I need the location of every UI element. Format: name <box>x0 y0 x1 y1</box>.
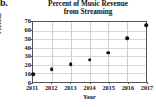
data-point <box>88 58 92 62</box>
y-tick-label: 20 <box>17 62 31 68</box>
y-tick-label: 30 <box>17 53 31 59</box>
y-tick-label: 50 <box>17 36 31 42</box>
y-tick-label: 40 <box>17 44 31 50</box>
y-axis-label: Percent <box>0 13 2 34</box>
data-point <box>107 51 111 55</box>
x-tick-mark <box>90 82 91 84</box>
chart-title: Percent of Music Revenue from Streaming <box>26 1 150 16</box>
x-tick-label: 2017 <box>136 84 156 91</box>
data-point <box>144 24 148 28</box>
x-tick-mark <box>128 82 129 84</box>
chart-screenshot: b. Percent of Music Revenue from Streami… <box>0 0 156 107</box>
gridline-vertical <box>90 22 91 82</box>
x-tick-mark <box>32 82 33 84</box>
y-tick-label: 60 <box>17 27 31 33</box>
x-axis-ticks: 2011201220132014201520162017 <box>32 84 147 93</box>
data-point <box>50 67 54 71</box>
data-point <box>125 36 129 40</box>
data-point <box>69 62 73 66</box>
y-tick-label: 70 <box>17 18 31 24</box>
x-tick-mark <box>109 82 110 84</box>
gridline-vertical <box>127 22 128 82</box>
x-tick-mark <box>147 82 148 84</box>
y-axis-ticks: 010203040506070 <box>14 21 31 83</box>
chart-title-line-2: from Streaming <box>26 9 150 17</box>
data-point <box>31 72 35 76</box>
x-axis-label: Year <box>32 93 147 100</box>
gridline-vertical <box>52 22 53 82</box>
x-tick-mark <box>70 82 71 84</box>
plot-area <box>32 21 147 83</box>
figure-part-label: b. <box>0 0 8 8</box>
x-tick-mark <box>51 82 52 84</box>
gridline-vertical <box>71 22 72 82</box>
y-tick-label: 10 <box>17 71 31 77</box>
